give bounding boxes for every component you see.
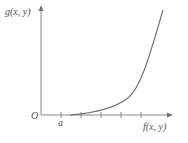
chart: g(x, y) O a f(x, y) <box>0 0 188 143</box>
tick-label-a: a <box>58 117 63 128</box>
y-axis-label: g(x, y) <box>5 6 31 18</box>
origin-label: O <box>31 110 38 121</box>
curve-line <box>70 10 163 115</box>
x-axis-label: f(x, y) <box>143 121 167 133</box>
